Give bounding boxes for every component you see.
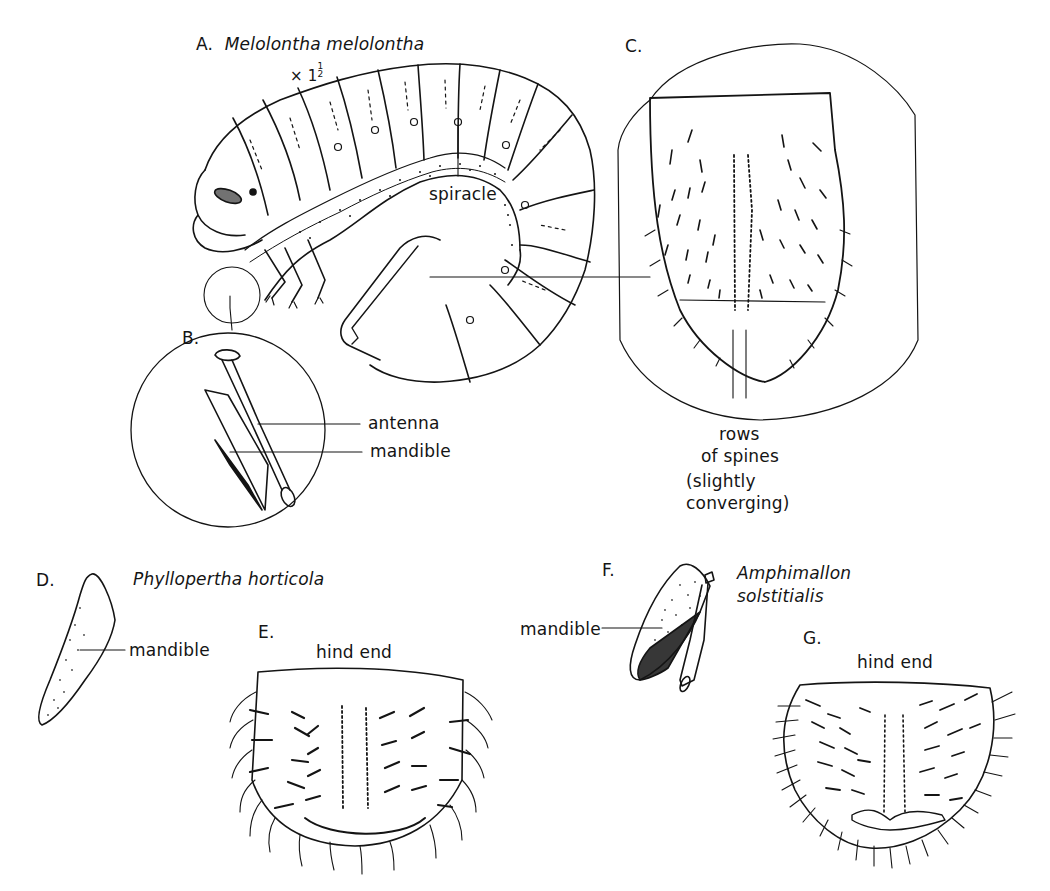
panel-a-heading: A. Melolontha melolontha (196, 34, 424, 54)
antenna-label: antenna (368, 413, 440, 433)
c-caption-line-4: converging) (686, 493, 790, 513)
c-caption-line-2: of spines (701, 446, 779, 466)
spiracle-label: spiracle (429, 184, 497, 204)
magnification-fraction: 12 (317, 62, 323, 78)
panel-g-title: hind end (857, 652, 933, 672)
panel-a-magnification: × 112 (290, 62, 323, 85)
mandible-label-d: mandible (129, 640, 210, 660)
panel-e-title: hind end (316, 642, 392, 662)
figure-drawings (0, 0, 1050, 891)
panel-d-species: Phyllopertha horticola (133, 569, 324, 589)
panel-f-species-line-1: Amphimallon (737, 563, 851, 583)
panel-b-letter: B. (182, 328, 199, 348)
magnification-prefix: × 1 (290, 67, 317, 85)
c-hind-end-drawing (618, 44, 918, 420)
panel-a-species: Melolontha melolontha (225, 34, 425, 54)
panel-c-letter: C. (625, 36, 643, 56)
panel-f-species-line-2: solstitialis (737, 586, 824, 606)
mandible-label-f: mandible (520, 619, 601, 639)
panel-g-letter: G. (803, 628, 822, 648)
b-inset-drawing (131, 333, 362, 527)
c-caption-line-1: rows (719, 424, 760, 444)
larva-body-drawing (193, 64, 650, 382)
panel-a-letter: A. (196, 34, 213, 54)
panel-e-letter: E. (258, 622, 275, 642)
head-inset-circle (204, 267, 260, 323)
mandible-label-b: mandible (370, 441, 451, 461)
c-caption-line-3: (slightly (686, 471, 756, 491)
panel-f-letter: F. (602, 560, 615, 580)
e-hind-end-drawing (230, 668, 492, 874)
fraction-denominator: 2 (317, 70, 323, 78)
f-mandible-drawing (602, 564, 714, 693)
b-connector (230, 296, 232, 330)
panel-d-letter: D. (36, 570, 55, 590)
d-mandible-drawing (39, 574, 125, 725)
g-hind-end-drawing (773, 682, 1015, 868)
